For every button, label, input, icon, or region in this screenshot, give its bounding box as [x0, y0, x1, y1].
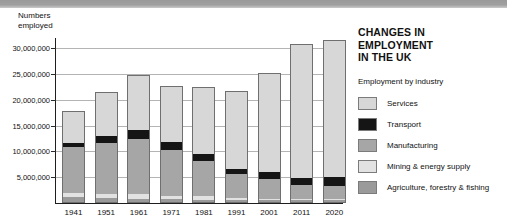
bar-segment	[259, 74, 280, 172]
bar-segment	[259, 179, 280, 199]
legend-list: ServicesTransportManufacturingMining & e…	[358, 94, 503, 198]
bar-1961[interactable]	[127, 75, 150, 203]
y-axis-tick	[51, 151, 56, 152]
legend-swatch-icon	[358, 160, 377, 173]
bar-segment	[128, 130, 149, 139]
bar-segment	[193, 161, 214, 196]
legend-item[interactable]: Agriculture, forestry & fishing	[358, 178, 503, 198]
bar-segment	[291, 178, 312, 186]
x-axis-tick-label: 2020	[314, 208, 354, 217]
chart-title: CHANGES IN EMPLOYMENT IN THE UK	[358, 26, 503, 64]
legend-swatch-icon	[358, 181, 377, 194]
legend-item[interactable]: Transport	[358, 115, 503, 135]
bar-2001[interactable]	[258, 73, 281, 203]
bar-segment	[226, 200, 247, 202]
bar-2011[interactable]	[290, 44, 313, 203]
bar-segment	[128, 199, 149, 202]
bar-segment	[128, 139, 149, 194]
bar-segment	[63, 112, 84, 143]
bar-segment	[324, 200, 345, 202]
top-decorative-band	[0, 0, 507, 8]
plot-area	[56, 38, 342, 203]
legend-label: Mining & energy supply	[387, 162, 470, 171]
y-axis-tick	[51, 177, 56, 178]
legend-label: Manufacturing	[387, 141, 438, 150]
bar-segment	[96, 198, 117, 202]
bar-1941[interactable]	[62, 111, 85, 203]
bar-segment	[63, 197, 84, 202]
bar-segment	[193, 154, 214, 161]
legend-panel: CHANGES IN EMPLOYMENT IN THE UK Employme…	[358, 26, 503, 199]
legend-swatch-icon	[358, 118, 377, 131]
y-axis-tick-label: 20,000,000	[12, 95, 50, 104]
bar-segment	[96, 143, 117, 194]
bar-segment	[291, 185, 312, 199]
bar-segment	[96, 93, 117, 136]
bar-segment	[259, 200, 280, 202]
bar-segment	[161, 199, 182, 202]
y-axis-tick	[51, 48, 56, 49]
bar-2020[interactable]	[323, 40, 346, 203]
legend-label: Services	[387, 99, 418, 108]
y-axis-tick-label: 25,000,000	[12, 70, 50, 79]
bar-segment	[161, 142, 182, 150]
bar-segment	[161, 150, 182, 197]
x-axis-line	[55, 203, 343, 204]
bar-segment	[324, 177, 345, 186]
bar-1971[interactable]	[160, 86, 183, 203]
y-axis-tick-label: 10,000,000	[12, 147, 50, 156]
y-axis-tick-label: 5,000,000	[17, 173, 50, 182]
bar-segment	[226, 174, 247, 198]
y-axis-tick	[51, 100, 56, 101]
legend-label: Transport	[387, 120, 421, 129]
bar-1951[interactable]	[95, 92, 118, 203]
legend-swatch-icon	[358, 97, 377, 110]
y-axis-tick-labels: 5,000,00010,000,00015,000,00020,000,0002…	[0, 38, 50, 203]
bar-segment	[324, 41, 345, 177]
y-axis-tick-label: 15,000,000	[12, 121, 50, 130]
y-axis-tick	[51, 126, 56, 127]
bar-segment	[324, 186, 345, 199]
bar-1981[interactable]	[192, 87, 215, 203]
y-axis-title: Numbers employed	[18, 11, 53, 31]
bar-segment	[193, 88, 214, 154]
bar-segment	[259, 172, 280, 180]
chart-page: Numbers employed 5,000,00010,000,00015,0…	[0, 0, 507, 223]
legend-item[interactable]: Services	[358, 94, 503, 114]
bar-segment	[128, 76, 149, 131]
y-axis-tick	[51, 74, 56, 75]
legend-label: Agriculture, forestry & fishing	[387, 183, 489, 192]
bar-segment	[193, 200, 214, 202]
legend-item[interactable]: Mining & energy supply	[358, 157, 503, 177]
legend-swatch-icon	[358, 139, 377, 152]
bar-segment	[161, 87, 182, 141]
bar-segment	[63, 147, 84, 193]
bar-1991[interactable]	[225, 91, 248, 203]
bar-segment	[226, 92, 247, 169]
y-axis-tick-label: 30,000,000	[12, 44, 50, 53]
legend-heading: Employment by industry	[358, 77, 503, 86]
bar-segment	[291, 200, 312, 202]
legend-item[interactable]: Manufacturing	[358, 136, 503, 156]
bar-segment	[291, 45, 312, 177]
